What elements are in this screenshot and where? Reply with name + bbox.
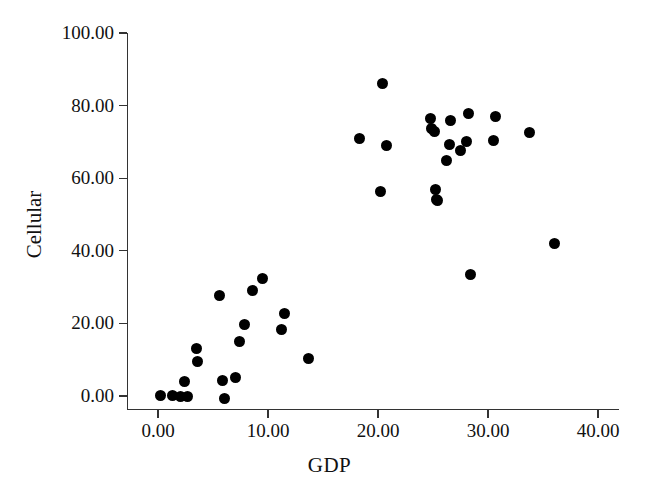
data-point — [441, 155, 452, 166]
data-point — [219, 393, 230, 404]
data-point — [375, 186, 386, 197]
y-tick-label: 40.00 — [71, 241, 114, 260]
x-tick-label: 40.00 — [538, 421, 658, 440]
x-tick-mark — [267, 409, 268, 418]
y-tick-label: 80.00 — [71, 96, 114, 115]
data-point — [214, 290, 225, 301]
data-point — [445, 115, 456, 126]
data-point — [429, 126, 440, 137]
y-axis-label-holder: Cellular — [14, 160, 54, 300]
data-point — [182, 391, 193, 402]
x-tick-mark — [377, 409, 378, 418]
y-tick-mark — [119, 32, 127, 33]
data-point — [257, 273, 268, 284]
y-tick-mark — [119, 323, 127, 324]
y-tick-mark — [119, 395, 127, 396]
x-tick-label: 20.00 — [318, 421, 438, 440]
data-point — [155, 390, 166, 401]
y-tick-mark — [119, 250, 127, 251]
y-tick-mark — [119, 105, 127, 106]
data-point — [444, 139, 455, 150]
x-axis-label: GDP — [0, 453, 659, 478]
data-point — [377, 78, 388, 89]
y-tick-label: 20.00 — [71, 313, 114, 332]
x-tick-label: 30.00 — [428, 421, 548, 440]
y-tick-label: 0.00 — [81, 386, 114, 405]
data-point — [463, 108, 474, 119]
data-point — [465, 269, 476, 280]
data-point — [234, 336, 245, 347]
x-tick-mark — [487, 409, 488, 418]
x-tick-label: 10.00 — [208, 421, 328, 440]
data-point — [549, 238, 560, 249]
y-tick-mark — [119, 178, 127, 179]
x-tick-mark — [157, 409, 158, 418]
data-point — [430, 184, 441, 195]
data-point — [179, 376, 190, 387]
y-tick-label: 60.00 — [71, 168, 114, 187]
data-point — [279, 308, 290, 319]
y-axis-label: Cellular — [22, 172, 47, 278]
x-tick-mark — [597, 409, 598, 418]
data-point — [230, 372, 241, 383]
scatter-plot-figure: 0.0020.0040.0060.0080.00100.00 0.0010.00… — [0, 0, 659, 491]
x-tick-label: 0.00 — [98, 421, 218, 440]
y-tick-label: 100.00 — [62, 23, 114, 42]
